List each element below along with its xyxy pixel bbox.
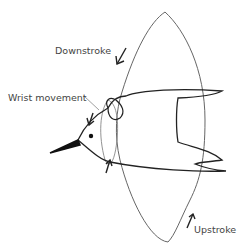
upstroke-label: Upstroke <box>194 224 236 235</box>
downstroke-arrow-icon <box>116 48 126 64</box>
wrist-up-arrow-icon <box>106 160 112 173</box>
downstroke-label: Downstroke <box>55 45 111 56</box>
bird-eye <box>89 134 93 138</box>
wingtip-path-loop <box>116 12 205 242</box>
wrist-movement-label: Wrist movement <box>8 92 87 103</box>
shoulder-wing <box>107 98 123 119</box>
bird-beak <box>50 140 80 153</box>
flight-diagram <box>0 0 237 250</box>
wrist-loop <box>101 100 118 164</box>
